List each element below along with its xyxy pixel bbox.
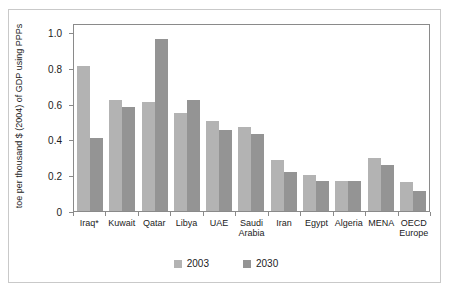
y-tick-label: 0.2	[18, 171, 62, 182]
x-tick-mark	[170, 212, 171, 216]
bar-group	[171, 25, 203, 211]
bar-groups	[74, 25, 429, 211]
bar-2003	[77, 66, 90, 211]
bar-group	[364, 25, 396, 211]
bar-group	[332, 25, 364, 211]
bar-2003	[271, 160, 284, 211]
bar-2030	[381, 165, 394, 211]
legend-item: 2030	[243, 258, 278, 269]
x-tick-mark	[365, 212, 366, 216]
bar-2030	[122, 107, 135, 211]
y-tick-label: 0	[18, 207, 62, 218]
x-tick-mark	[105, 212, 106, 216]
bar-2003	[303, 175, 316, 211]
y-tick-label: 0.8	[18, 63, 62, 74]
y-tick-label: 0.4	[18, 135, 62, 146]
bar-2030	[219, 130, 232, 211]
bar-2003	[174, 113, 187, 211]
legend-label: 2003	[187, 258, 209, 269]
legend-item: 2003	[174, 258, 209, 269]
bar-2003	[368, 158, 381, 211]
plot-area	[73, 24, 430, 212]
chart-title	[70, 0, 390, 6]
figure: toe per thousand $ (2004) of GDP using P…	[0, 0, 452, 292]
bar-group	[235, 25, 267, 211]
x-tick-mark	[268, 212, 269, 216]
x-tick-mark	[398, 212, 399, 216]
bar-2030	[90, 138, 103, 211]
bar-2030	[187, 100, 200, 211]
bar-group	[139, 25, 171, 211]
y-tick-label: 0.6	[18, 99, 62, 110]
x-tick-label-line: Arabia	[229, 228, 273, 238]
bar-group	[74, 25, 106, 211]
bar-2003	[238, 127, 251, 211]
x-tick-mark	[203, 212, 204, 216]
legend-swatch	[243, 260, 251, 268]
bar-2003	[400, 182, 413, 211]
x-tick-mark	[73, 212, 74, 216]
legend-label: 2030	[256, 258, 278, 269]
y-tick-label: 1.0	[18, 27, 62, 38]
x-tick-mark	[300, 212, 301, 216]
bar-2030	[251, 134, 264, 211]
bar-2030	[413, 191, 426, 211]
bar-2003	[206, 121, 219, 211]
bar-2030	[155, 39, 168, 211]
x-tick-mark	[430, 212, 431, 216]
x-tick-mark	[333, 212, 334, 216]
y-axis-label: toe per thousand $ (2004) of GDP using P…	[14, 16, 30, 216]
bar-2003	[109, 100, 122, 211]
bar-2030	[348, 181, 361, 211]
x-tick-mark	[138, 212, 139, 216]
bar-2030	[284, 172, 297, 211]
bar-2030	[316, 181, 329, 211]
x-tick-label-line: Europe	[392, 228, 436, 238]
bar-group	[203, 25, 235, 211]
legend: 20032030	[0, 258, 452, 269]
bar-group	[268, 25, 300, 211]
x-tick-mark	[235, 212, 236, 216]
x-tick-label: OECDEurope	[392, 218, 436, 238]
bar-group	[106, 25, 138, 211]
x-tick-label-line: OECD	[392, 218, 436, 228]
legend-swatch	[174, 260, 182, 268]
bar-2003	[142, 102, 155, 211]
bar-group	[300, 25, 332, 211]
bar-2003	[335, 181, 348, 211]
bar-group	[397, 25, 429, 211]
